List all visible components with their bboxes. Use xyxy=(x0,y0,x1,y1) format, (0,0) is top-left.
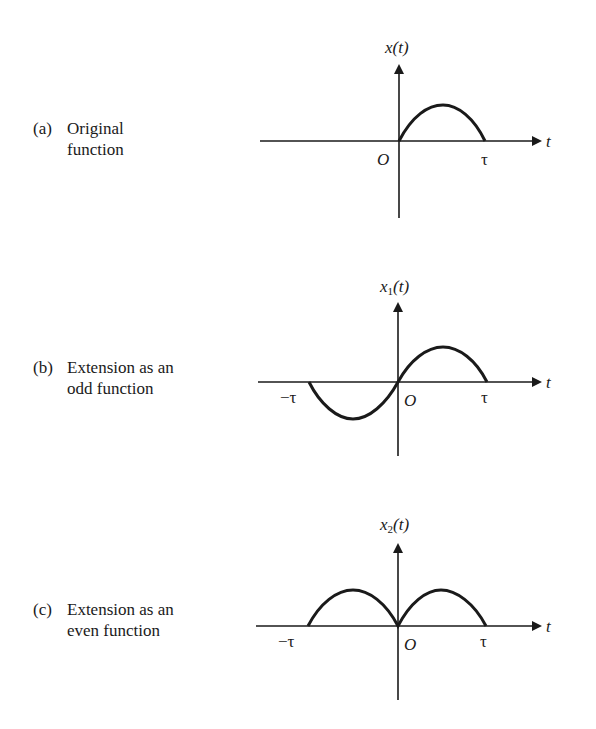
x-axis-label: t xyxy=(546,132,552,151)
x-axis-label: t xyxy=(546,373,552,392)
origin-label: O xyxy=(377,150,389,169)
plot-a: x(t) t O τ xyxy=(260,38,552,218)
diagram-canvas: x(t) t O τ x1(t) t O τ −τ x2(t) t O τ −τ xyxy=(0,0,596,729)
tick-neg-tau: −τ xyxy=(278,632,295,651)
plot-b: x1(t) t O τ −τ xyxy=(258,277,552,456)
y-axis-label: x2(t) xyxy=(379,515,409,535)
tick-tau: τ xyxy=(481,150,488,169)
origin-label: O xyxy=(404,635,416,654)
tick-neg-tau: −τ xyxy=(280,388,297,407)
curve-x xyxy=(399,105,485,141)
plot-c: x2(t) t O τ −τ xyxy=(256,515,552,700)
y-axis-label: x1(t) xyxy=(379,277,409,297)
origin-label: O xyxy=(404,391,416,410)
tick-tau: τ xyxy=(480,632,487,651)
tick-tau: τ xyxy=(481,388,488,407)
x-axis-label: t xyxy=(546,617,552,636)
y-axis-label: x(t) xyxy=(384,38,409,57)
curve-x2 xyxy=(308,590,486,626)
